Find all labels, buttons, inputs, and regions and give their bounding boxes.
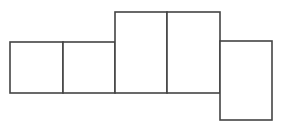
rect-3 bbox=[115, 12, 167, 93]
rect-4 bbox=[167, 12, 220, 93]
rect-5 bbox=[220, 41, 272, 120]
rect-1 bbox=[10, 42, 63, 93]
net-diagram bbox=[0, 0, 286, 123]
rect-2 bbox=[63, 42, 115, 93]
